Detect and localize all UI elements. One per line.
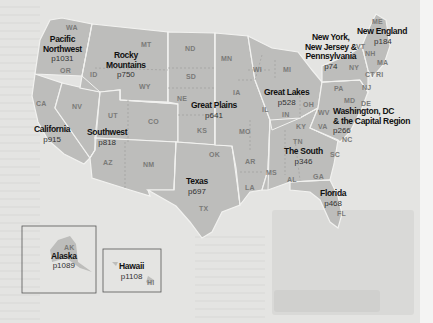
state-label-nm: NM: [143, 160, 154, 170]
page-ref: p1108: [119, 272, 144, 282]
region-label-texas[interactable]: Texas p697: [186, 177, 208, 196]
state-label-wv: WV: [318, 108, 330, 118]
state-label-fl: FL: [337, 209, 346, 219]
page-ref: p346: [284, 157, 323, 167]
state-label-hi: HI: [147, 278, 154, 288]
page-ref: p1089: [51, 261, 77, 271]
state-label-va: VA: [318, 122, 328, 132]
region-label-hawaii[interactable]: Hawaii p1108: [119, 262, 144, 281]
page-ref: p1031: [43, 54, 82, 64]
state-label-wy: WY: [139, 82, 151, 92]
region-label-new-york-nj-pa[interactable]: New York, New Jersey & Pennsylvania p74: [305, 33, 357, 71]
state-label-pa: PA: [334, 84, 344, 94]
page-ref: p184: [357, 37, 407, 47]
region-label-great-lakes[interactable]: Great Lakes p528: [264, 88, 309, 107]
page-ref: p818: [87, 138, 127, 148]
state-label-sc: SC: [330, 150, 340, 160]
state-label-ne: NE: [177, 94, 187, 104]
region-label-washington-dc[interactable]: Washington, DC & the Capital Region p266: [333, 107, 410, 136]
page-ref: p266: [333, 126, 410, 136]
state-label-wa: WA: [66, 23, 78, 33]
state-label-id: ID: [90, 70, 97, 80]
state-label-mt: MT: [141, 40, 152, 50]
page-ref: p74: [305, 62, 357, 72]
state-label-ok: OK: [209, 150, 220, 160]
state-label-nv: NV: [72, 102, 82, 112]
state-label-mn: MN: [221, 54, 232, 64]
state-label-ri: RI: [376, 70, 383, 80]
state-label-mo: MO: [239, 127, 251, 137]
page-ref: p750: [106, 70, 146, 80]
region-label-great-plains[interactable]: Great Plains p641: [191, 101, 237, 120]
state-label-or: OR: [60, 66, 71, 76]
state-label-ma: MA: [377, 58, 388, 68]
page-ref: p528: [264, 98, 309, 108]
page-ref: p697: [186, 187, 208, 197]
state-label-in: IN: [282, 110, 289, 120]
state-label-ky: KY: [296, 122, 306, 132]
state-label-nc: NC: [342, 135, 353, 145]
state-label-md: MD: [344, 96, 355, 106]
region-label-california[interactable]: California p915: [34, 125, 70, 144]
state-label-ia: IA: [233, 88, 240, 98]
state-label-ks: KS: [197, 126, 207, 136]
state-label-nh: NH: [365, 49, 376, 59]
region-label-florida[interactable]: Florida p468: [320, 189, 346, 208]
region-label-rocky-mountains[interactable]: Rocky Mountains p750: [106, 51, 146, 80]
state-label-nj: NJ: [362, 83, 371, 93]
page-ref: p468: [320, 199, 346, 209]
state-label-co: CO: [148, 117, 159, 127]
state-label-mi: MI: [283, 65, 291, 75]
state-label-nd: ND: [185, 44, 196, 54]
state-label-ga: GA: [313, 172, 324, 182]
state-label-wi: WI: [253, 65, 262, 75]
page-ref: p915: [34, 135, 70, 145]
state-label-az: AZ: [103, 158, 113, 168]
state-label-ms: MS: [266, 168, 277, 178]
region-label-the-south[interactable]: The South p346: [284, 147, 323, 166]
state-label-ca: CA: [36, 99, 47, 109]
state-label-ar: AR: [245, 157, 256, 167]
state-label-ct: CT: [365, 70, 375, 80]
state-label-sd: SD: [186, 72, 196, 82]
state-label-al: AL: [287, 175, 297, 185]
state-label-la: LA: [245, 183, 255, 193]
region-label-southwest[interactable]: Southwest p818: [87, 128, 127, 147]
state-label-ut: UT: [108, 111, 118, 121]
page-ref: p641: [191, 111, 237, 121]
region-label-new-england[interactable]: New England p184: [357, 27, 407, 46]
state-label-tx: TX: [199, 204, 208, 214]
region-label-pacific-northwest[interactable]: Pacific Northwest p1031: [43, 35, 82, 64]
region-label-alaska[interactable]: Alaska p1089: [51, 252, 77, 270]
